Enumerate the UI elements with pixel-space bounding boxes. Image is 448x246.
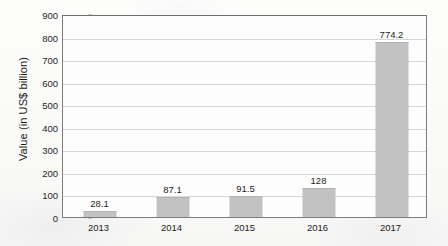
bars-series: 28.187.191.5128774.2 (63, 16, 426, 217)
y-axis-tick-label: 600 (42, 77, 58, 88)
x-axis-tick-label: 2017 (380, 222, 401, 233)
bar-value-label: 128 (311, 175, 327, 186)
y-axis-tick-label: 0 (53, 213, 58, 224)
bar[interactable] (229, 196, 262, 217)
x-axis-tick-label: 2013 (88, 222, 109, 233)
x-axis-tick-label: 2015 (234, 222, 255, 233)
bar[interactable] (83, 211, 116, 217)
y-axis-tick-label: 400 (42, 122, 58, 133)
y-axis-tick-label: 900 (42, 10, 58, 21)
bar-slot: 87.1 (136, 16, 209, 217)
bar-slot: 774.2 (355, 16, 428, 217)
bar-slot: 28.1 (63, 16, 136, 217)
bar-value-label: 91.5 (236, 183, 255, 194)
bar-value-label: 87.1 (163, 184, 182, 195)
y-axis-tick-label: 700 (42, 55, 58, 66)
bar[interactable] (156, 197, 189, 217)
bar-value-label: 28.1 (90, 198, 109, 209)
y-axis-title-text: Value (in US$ billion) (17, 57, 29, 161)
plot-area: 28.187.191.5128774.2 (62, 15, 427, 218)
bar-slot: 91.5 (209, 16, 282, 217)
y-axis-tick-label: 200 (42, 167, 58, 178)
bar-chart-figure: Value (in US$ billion) 90080070060050040… (0, 0, 448, 246)
y-axis-tick-label: 100 (42, 190, 58, 201)
bar[interactable] (302, 188, 335, 217)
y-axis-tick-labels: 9008007006005004003002001000 (30, 15, 58, 218)
bar-value-label: 774.2 (380, 29, 404, 40)
x-axis-tick-labels: 20132014201520162017 (62, 222, 427, 238)
y-axis-tick-label: 500 (42, 100, 58, 111)
bar-slot: 128 (282, 16, 355, 217)
x-axis-tick-label: 2014 (161, 222, 182, 233)
bar[interactable] (375, 42, 408, 217)
y-axis-tick-label: 800 (42, 32, 58, 43)
x-axis-tick-label: 2016 (307, 222, 328, 233)
y-axis-tick-label: 300 (42, 145, 58, 156)
